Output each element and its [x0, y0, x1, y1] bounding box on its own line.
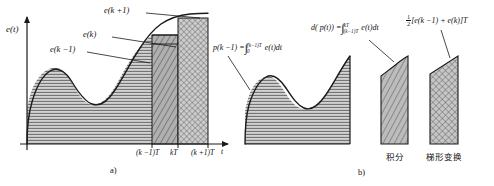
- formula-p-limits: (k−1)T0: [247, 43, 262, 54]
- panel-b-bar-integral: [381, 56, 408, 144]
- formula-dp-lower: (k−1)T: [344, 29, 359, 34]
- figure-canvas: [0, 0, 494, 186]
- formula-p-lower: 0: [247, 49, 262, 54]
- callout-e-k: e(k): [83, 29, 96, 39]
- x-tick-k-plus-1-T: (k +1)T: [191, 148, 214, 157]
- panel-b-bar-trapezoid: [430, 56, 458, 144]
- bar-label-integral: 积分: [386, 150, 404, 162]
- panel-a-curve-area: [27, 35, 152, 144]
- formula-trapezoid: 12[e(k −1) + e(k)]T: [406, 14, 468, 28]
- panel-a-bar-ek1: [178, 18, 208, 144]
- callout-e-k-plus-1: e(k +1): [104, 5, 129, 15]
- panel-b-curve-area: [245, 55, 350, 144]
- panel-a-y-axis-label: e(t): [6, 24, 19, 34]
- figure-root: e(t) e(k +1) e(k) e(k −1) (k −1)T kT (k …: [0, 0, 494, 186]
- formula-p-lhs: p(k −1) =: [213, 43, 245, 52]
- formula-dp-limits: kT(k−1)T: [344, 23, 359, 34]
- formula-dp-integrand: e(t)dt: [361, 23, 378, 32]
- formula-p-integrand: e(t)dt: [265, 43, 282, 52]
- callout-e-k-minus-1: e(k −1): [50, 44, 75, 54]
- formula-d-p-t: d( p(t)) =∫kT(k−1)T e(t)dt: [311, 23, 379, 34]
- bar-label-trapezoid: 梯形变换: [426, 150, 462, 162]
- x-tick-kT: kT: [170, 148, 178, 157]
- panel-a-bar-ek: [152, 35, 178, 144]
- caption-a: a): [110, 165, 117, 175]
- formula-p-k-minus-1: p(k −1) =∫(k−1)T0 e(t)dt: [213, 43, 282, 54]
- caption-b: b): [358, 167, 365, 177]
- panel-a-x-axis-label: t: [221, 147, 223, 156]
- formula-trap-body: [e(k −1) + e(k)]T: [411, 16, 467, 25]
- x-tick-k-minus-1-T: (k −1)T: [136, 148, 159, 157]
- formula-dp-lhs: d( p(t)) =: [311, 23, 341, 32]
